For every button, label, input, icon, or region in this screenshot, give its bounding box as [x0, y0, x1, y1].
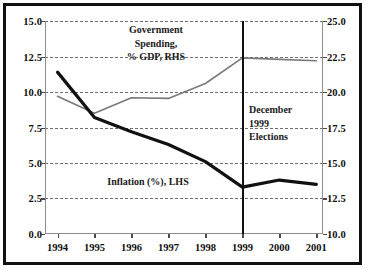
right-axis-tick-label: 17.5 [327, 122, 346, 133]
government-spending-label: Government Spending, % GDP, RHS [96, 23, 216, 64]
december-elections-label: December 1999 Elections [249, 103, 323, 144]
right-axis-tick-label: 10.0 [327, 229, 346, 240]
right-axis-tick [323, 163, 327, 164]
december-1999-election-line [242, 21, 244, 234]
right-axis-tick [323, 234, 327, 235]
left-axis-tick-label: 12.5 [23, 51, 42, 62]
x-axis-tick-label: 2001 [306, 242, 327, 253]
right-axis-tick-label: 20.0 [327, 86, 346, 97]
x-axis-tick-label: 1995 [84, 242, 105, 253]
right-axis-tick-label: 15.0 [327, 158, 346, 169]
right-axis-tick [323, 92, 327, 93]
x-axis-tick-label: 2000 [269, 242, 290, 253]
right-axis-tick-label: 22.5 [327, 51, 346, 62]
right-axis-tick [323, 57, 327, 58]
x-axis-tick-label: 1996 [121, 242, 142, 253]
left-axis-tick-label: 10.0 [23, 86, 42, 97]
left-axis-tick-label: 2.5 [29, 193, 42, 204]
inflation-label: Inflation (%), LHS [68, 176, 228, 188]
left-axis-tick [41, 234, 45, 235]
right-axis-tick [323, 21, 327, 22]
left-axis-tick-label: 5.0 [29, 158, 42, 169]
right-axis-tick-label: 12.5 [327, 193, 346, 204]
x-axis-tick-label: 1997 [158, 242, 179, 253]
left-axis: 15.0 12.5 10.0 7.5 5.0 2.5 0.0 [6, 21, 42, 234]
left-axis-tick-label: 7.5 [29, 122, 42, 133]
right-axis-tick [323, 128, 327, 129]
x-axis: 1994 1995 1996 1997 1998 1999 2000 2001 [45, 238, 323, 260]
chart-frame: 15.0 12.5 10.0 7.5 5.0 2.5 0.0 25.0 22.5… [3, 3, 362, 265]
x-axis-tick-label: 1994 [47, 242, 68, 253]
right-axis-tick-label: 25.0 [327, 16, 346, 27]
left-axis-tick-label: 0.0 [29, 229, 42, 240]
x-axis-tick-label: 1999 [232, 242, 253, 253]
x-axis-tick-label: 1998 [195, 242, 216, 253]
right-axis-tick [323, 198, 327, 199]
left-axis-tick-label: 15.0 [23, 16, 42, 27]
right-axis: 25.0 22.5 20.0 17.5 15.0 12.5 10.0 [327, 21, 365, 234]
